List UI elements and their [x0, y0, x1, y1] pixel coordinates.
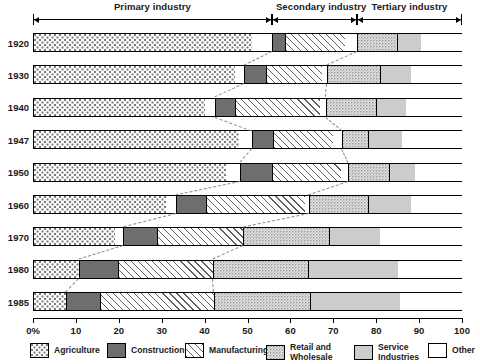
- x-axis-tick-label: 40: [199, 325, 210, 336]
- bracket-arrow-left: [358, 17, 363, 23]
- connector-line: [243, 213, 309, 227]
- bar-segment: [389, 164, 416, 181]
- bracket-arrow-right: [456, 17, 461, 23]
- connector-line: [215, 83, 245, 97]
- bar-segment: [327, 66, 382, 83]
- bar-segment: [368, 131, 403, 148]
- bar-segment: [342, 131, 369, 148]
- bracket-arrow-left: [34, 17, 39, 23]
- legend-label: Service Industries: [378, 343, 419, 362]
- bar-segment: [310, 293, 401, 310]
- bar-segment: [348, 164, 390, 181]
- bar-segment: [33, 164, 227, 181]
- legend-item: Service Industries: [354, 343, 419, 362]
- bracket-line: [357, 19, 462, 20]
- legend-item: Other: [428, 343, 475, 358]
- bar-segment: [252, 131, 274, 148]
- bar-segment: [100, 293, 215, 310]
- bar-segment: [397, 34, 422, 51]
- bar-segment: [33, 293, 67, 310]
- connector-line: [176, 181, 241, 195]
- stacked-bar: [33, 98, 462, 117]
- stacked-bar: [33, 163, 462, 182]
- legend-swatch: [354, 345, 373, 360]
- legend-label: Other: [452, 346, 475, 356]
- connector-line: [309, 181, 349, 195]
- x-axis-tick-label: 50: [242, 325, 253, 336]
- bar-segment: [244, 66, 266, 83]
- bar-segment: [33, 228, 116, 245]
- legend-item: Retail and Wholesale: [266, 343, 333, 362]
- industry-bracket-row: Primary industrySecondary industryTertia…: [0, 0, 480, 28]
- x-axis-tick-label: 90: [414, 325, 425, 336]
- legend-item: Construction: [107, 343, 184, 358]
- x-axis-tick-label: 100: [454, 325, 470, 336]
- legend-label: Manufacturing: [209, 346, 268, 356]
- year-label: 1970: [8, 231, 29, 242]
- legend-label: Agriculture: [54, 346, 100, 356]
- legend-swatch: [428, 343, 447, 358]
- connector-line: [123, 213, 176, 227]
- bar-segment: [421, 34, 463, 51]
- stacked-bar: [33, 292, 462, 311]
- year-label: 1947: [8, 134, 29, 145]
- stacked-bar-chart: Primary industrySecondary industryTertia…: [0, 0, 480, 364]
- bar-row: 1920: [33, 33, 462, 52]
- bar-segment: [123, 228, 158, 245]
- bar-segment: [357, 34, 398, 51]
- connector-line: [325, 84, 327, 97]
- year-label: 1985: [8, 296, 29, 307]
- stacked-bar: [33, 65, 462, 84]
- year-label: 1980: [8, 264, 29, 275]
- bar-segment: [214, 293, 311, 310]
- bracket-line: [272, 19, 357, 20]
- stacked-bar: [33, 195, 462, 214]
- bar-segment: [33, 99, 206, 116]
- bar-segment: [240, 164, 273, 181]
- legend-item: Agriculture: [30, 343, 100, 358]
- legend-swatch: [107, 343, 126, 358]
- bar-segment: [215, 99, 235, 116]
- bar-segment: [33, 261, 80, 278]
- bar-row: 1950: [33, 163, 462, 182]
- x-axis-tick: [462, 318, 463, 323]
- bar-segment: [402, 131, 463, 148]
- bar-segment: [376, 99, 407, 116]
- bar-segment: [272, 34, 286, 51]
- connector-line: [79, 245, 123, 259]
- x-axis-tick: [119, 318, 120, 323]
- bar-segment: [239, 131, 253, 148]
- bar-row: 1930: [33, 65, 462, 84]
- x-axis-tick: [248, 318, 249, 323]
- stacked-bar: [33, 33, 462, 52]
- stacked-bar: [33, 260, 462, 279]
- connector-line: [65, 278, 79, 292]
- bracket-label: Primary industry: [33, 1, 272, 12]
- year-label: 1950: [8, 167, 29, 178]
- legend-item: Manufacturing: [185, 343, 268, 358]
- industry-bracket: Primary industry: [33, 14, 272, 25]
- x-axis-tick-label: 60: [285, 325, 296, 336]
- bar-segment: [252, 34, 273, 51]
- bar-segment: [235, 99, 322, 116]
- year-label: 1930: [8, 69, 29, 80]
- bar-segment: [226, 164, 241, 181]
- connector-line: [326, 51, 356, 65]
- legend-swatch: [30, 343, 49, 358]
- legend-label: Retail and Wholesale: [290, 343, 333, 362]
- x-axis-tick: [290, 318, 291, 323]
- x-axis-tick: [419, 318, 420, 323]
- bar-segment: [308, 261, 399, 278]
- bar-segment: [272, 164, 342, 181]
- bar-segment: [411, 196, 463, 213]
- bar-segment: [33, 66, 236, 83]
- bar-segment: [118, 261, 214, 278]
- bar-segment: [309, 196, 369, 213]
- bracket-arrow-right: [266, 17, 271, 23]
- bar-segment: [273, 131, 334, 148]
- bar-segment: [398, 261, 463, 278]
- industry-bracket: Tertiary industry: [357, 14, 462, 25]
- bar-row: 1980: [33, 260, 462, 279]
- bar-segment: [243, 228, 330, 245]
- bar-segment: [411, 66, 463, 83]
